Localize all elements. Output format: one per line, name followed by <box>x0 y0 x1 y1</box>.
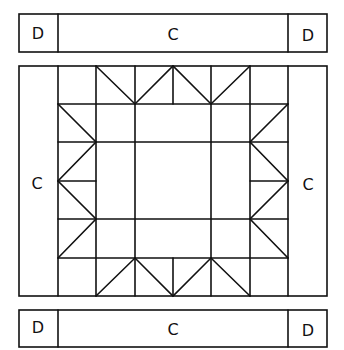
middle-section: C C <box>19 66 327 296</box>
top-left-label: D <box>32 24 44 43</box>
top-strip: D C D <box>19 14 327 52</box>
quilt-diagram: D C D C C <box>0 0 344 350</box>
center-block <box>58 66 288 296</box>
top-right-label: D <box>302 26 314 45</box>
bottom-center-label: C <box>167 320 178 339</box>
top-center-label: C <box>167 25 178 44</box>
middle-left-label: C <box>31 174 42 193</box>
bottom-right-label: D <box>302 321 314 340</box>
middle-right-label: C <box>302 175 313 194</box>
bottom-left-label: D <box>32 318 44 337</box>
bottom-strip: D C D <box>19 310 327 347</box>
